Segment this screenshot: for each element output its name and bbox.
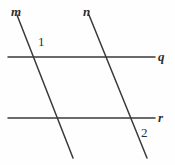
label-angle-2: 2 (141, 126, 148, 139)
label-line-r: r (158, 111, 163, 124)
line-n (89, 15, 147, 158)
label-line-q: q (158, 50, 165, 63)
geometry-canvas (0, 0, 175, 165)
label-line-n: n (83, 5, 90, 18)
line-m (17, 15, 73, 158)
geometry-figure: m n q r 1 2 (0, 0, 175, 165)
label-line-m: m (11, 5, 21, 18)
label-angle-1: 1 (38, 35, 45, 48)
